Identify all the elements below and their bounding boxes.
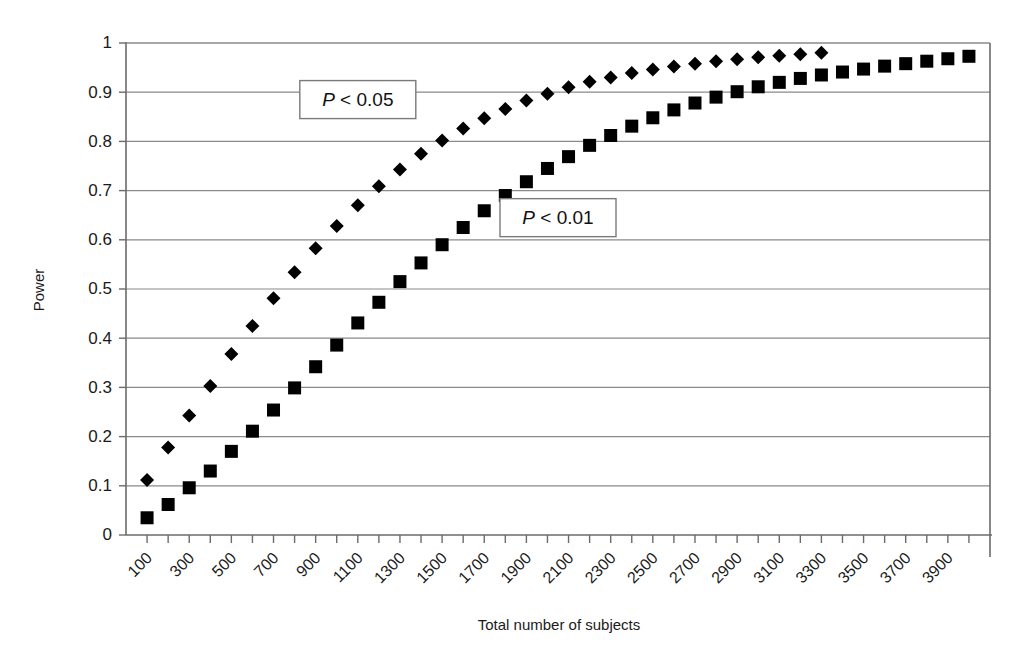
data-point-square bbox=[351, 316, 364, 329]
data-point-diamond bbox=[498, 102, 512, 116]
data-point-square bbox=[246, 425, 259, 438]
x-tick-label: 1300 bbox=[371, 549, 408, 586]
data-point-diamond bbox=[435, 133, 449, 147]
x-tick-label: 1500 bbox=[413, 549, 450, 586]
y-tick-label: 0.7 bbox=[88, 181, 112, 200]
data-point-square bbox=[836, 66, 849, 79]
data-point-square bbox=[520, 175, 533, 188]
data-point-square bbox=[162, 498, 175, 511]
data-point-diamond bbox=[245, 319, 259, 333]
data-point-diamond bbox=[309, 241, 323, 255]
data-point-square bbox=[267, 404, 280, 417]
x-tick-label: 2100 bbox=[539, 549, 576, 586]
data-point-square bbox=[309, 360, 322, 373]
data-point-square bbox=[794, 72, 807, 85]
data-point-square bbox=[899, 57, 912, 70]
data-point-diamond bbox=[793, 47, 807, 61]
x-tick-label: 3900 bbox=[919, 549, 956, 586]
data-point-square bbox=[541, 162, 554, 175]
data-point-diamond bbox=[203, 379, 217, 393]
data-point-square bbox=[204, 465, 217, 478]
data-point-square bbox=[688, 97, 701, 110]
data-point-square bbox=[562, 150, 575, 163]
data-point-diamond bbox=[751, 50, 765, 64]
y-tick-label: 0.6 bbox=[88, 230, 112, 249]
x-axis-title: Total number of subjects bbox=[478, 616, 641, 633]
data-point-square bbox=[962, 50, 975, 63]
y-tick-labels-group: 00.10.20.30.40.50.60.70.80.91 bbox=[88, 33, 112, 544]
data-point-diamond bbox=[667, 60, 681, 74]
data-point-square bbox=[773, 76, 786, 89]
annotation-label-2: P < 0.01 bbox=[522, 207, 593, 228]
series-markers-p-lt-005 bbox=[140, 46, 828, 487]
x-tick-label: 3700 bbox=[877, 549, 914, 586]
data-point-square bbox=[393, 275, 406, 288]
x-tick-label: 500 bbox=[209, 549, 240, 580]
data-point-diamond bbox=[330, 219, 344, 233]
data-point-diamond bbox=[182, 408, 196, 422]
x-tick-label: 2900 bbox=[708, 549, 745, 586]
x-tick-label: 700 bbox=[251, 549, 282, 580]
data-point-diamond bbox=[625, 66, 639, 80]
y-tick-label: 0.2 bbox=[88, 427, 112, 446]
y-tick-label: 0.5 bbox=[88, 279, 112, 298]
x-tick-label: 1700 bbox=[455, 549, 492, 586]
data-point-diamond bbox=[583, 75, 597, 89]
data-point-square bbox=[330, 339, 343, 352]
data-point-diamond bbox=[814, 46, 828, 60]
data-point-square bbox=[941, 52, 954, 65]
data-point-diamond bbox=[267, 291, 281, 305]
data-point-diamond bbox=[477, 111, 491, 125]
y-tick-label: 1 bbox=[103, 33, 112, 52]
x-tick-label: 900 bbox=[293, 549, 324, 580]
data-point-square bbox=[710, 91, 723, 104]
data-point-square bbox=[141, 511, 154, 524]
data-point-diamond bbox=[604, 70, 618, 84]
annotation-label-1: P < 0.05 bbox=[322, 89, 393, 110]
y-tick-label: 0 bbox=[103, 525, 112, 544]
x-tick-label: 2700 bbox=[666, 549, 703, 586]
data-point-diamond bbox=[540, 87, 554, 101]
x-tick-labels-group: 1003005007009001100130015001700190021002… bbox=[124, 549, 956, 586]
data-point-square bbox=[225, 445, 238, 458]
axis-frame-group bbox=[126, 42, 992, 557]
data-point-square bbox=[646, 111, 659, 124]
data-point-square bbox=[436, 238, 449, 251]
data-point-square bbox=[183, 481, 196, 494]
data-point-diamond bbox=[646, 63, 660, 77]
data-point-square bbox=[920, 55, 933, 68]
data-point-square bbox=[752, 80, 765, 93]
y-tick-label: 0.9 bbox=[88, 83, 112, 102]
x-tickmarks-group bbox=[147, 535, 969, 543]
data-point-square bbox=[288, 381, 301, 394]
data-point-square bbox=[415, 256, 428, 269]
data-point-diamond bbox=[224, 347, 238, 361]
y-tickmarks-group bbox=[119, 43, 126, 535]
data-point-diamond bbox=[288, 265, 302, 279]
data-point-diamond bbox=[393, 162, 407, 176]
gridlines-group bbox=[126, 43, 990, 486]
y-tick-label: 0.1 bbox=[88, 476, 112, 495]
x-tick-label: 1100 bbox=[330, 549, 366, 585]
y-tick-label: 0.8 bbox=[88, 132, 112, 151]
data-point-diamond bbox=[140, 473, 154, 487]
y-axis-title: Power bbox=[30, 269, 47, 312]
data-point-diamond bbox=[456, 122, 470, 136]
data-point-square bbox=[478, 204, 491, 217]
power-curve-chart: 00.10.20.30.40.50.60.70.80.91 1003005007… bbox=[0, 0, 1019, 654]
x-tick-label: 3300 bbox=[792, 549, 829, 586]
data-point-square bbox=[667, 103, 680, 116]
data-point-diamond bbox=[730, 52, 744, 66]
data-point-square bbox=[583, 139, 596, 152]
data-point-square bbox=[857, 63, 870, 76]
data-point-diamond bbox=[414, 147, 428, 161]
y-tick-label: 0.3 bbox=[88, 378, 112, 397]
chart-figure: 00.10.20.30.40.50.60.70.80.91 1003005007… bbox=[0, 0, 1019, 654]
x-tick-label: 3500 bbox=[834, 549, 871, 586]
data-point-diamond bbox=[688, 57, 702, 71]
x-tick-label: 100 bbox=[124, 549, 155, 580]
x-tick-label: 3100 bbox=[750, 549, 787, 586]
x-tick-label: 2300 bbox=[582, 549, 619, 586]
data-point-diamond bbox=[519, 94, 533, 108]
x-tick-label: 1900 bbox=[497, 549, 534, 586]
